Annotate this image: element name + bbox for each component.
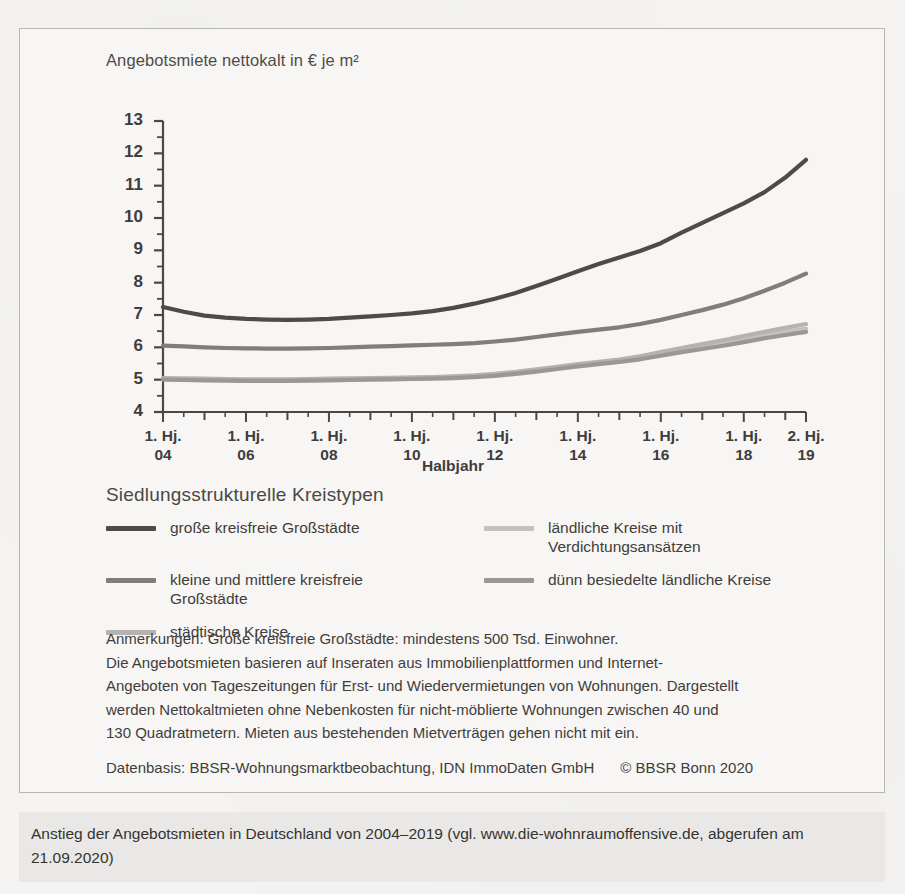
legend-color-swatch <box>484 526 534 531</box>
note-line: Die Angebotsmieten basieren auf Inserate… <box>106 651 836 675</box>
x-tick-period: 1. Hj. <box>559 427 596 444</box>
y-axis-tick-label: 8 <box>115 272 143 292</box>
x-tick-period: 1. Hj. <box>642 427 679 444</box>
legend-color-swatch <box>484 578 534 583</box>
data-basis-row: Datenbasis: BBSR-Wohnungsmarktbeobachtun… <box>106 759 836 776</box>
chart-legend: Siedlungsstrukturelle Kreistypen große k… <box>106 484 846 648</box>
x-tick-period: 1. Hj. <box>393 427 430 444</box>
x-axis-title: Halbjahr <box>20 457 886 475</box>
legend-item-label: dünn besiedelte ländliche Kreise <box>548 570 771 589</box>
legend-item-label: große kreisfreie Großstädte <box>170 518 360 537</box>
chart-notes: Anmerkungen: Große kreisfreie Großstädte… <box>106 627 836 745</box>
y-axis-tick-label: 13 <box>115 110 143 130</box>
x-tick-period: 1. Hj. <box>227 427 264 444</box>
y-axis-tick-label: 12 <box>115 142 143 162</box>
note-line: werden Nettokaltmieten ohne Nebenkosten … <box>106 698 836 722</box>
y-axis-tick-label: 4 <box>115 401 143 421</box>
x-tick-period: 1. Hj. <box>144 427 181 444</box>
x-tick-period: 1. Hj. <box>476 427 513 444</box>
legend-item-label: ländliche Kreise mit Verdichtungsansätze… <box>548 518 798 556</box>
series-line <box>163 160 806 320</box>
chart-area: Angebotsmiete nettokalt in € je m² 13121… <box>20 29 886 429</box>
line-chart-plot <box>20 29 886 429</box>
legend-color-swatch <box>106 578 156 583</box>
x-tick-period: 2. Hj. <box>787 427 824 444</box>
copyright-text: © BBSR Bonn 2020 <box>620 759 753 776</box>
figure-caption-band: Anstieg der Angebotsmieten in Deutschlan… <box>19 812 885 882</box>
legend-item-label: kleine und mittlere kreisfreie Großstädt… <box>170 570 420 608</box>
y-axis-tick-label: 10 <box>115 207 143 227</box>
data-basis-text: Datenbasis: BBSR-Wohnungsmarktbeobachtun… <box>106 759 594 776</box>
legend-item[interactable]: kleine und mittlere kreisfreie Großstädt… <box>106 570 420 608</box>
page-canvas: Angebotsmiete nettokalt in € je m² 13121… <box>0 0 905 894</box>
x-tick-period: 1. Hj. <box>725 427 762 444</box>
legend-title: Siedlungsstrukturelle Kreistypen <box>106 484 846 506</box>
legend-color-swatch <box>106 526 156 531</box>
y-axis-tick-label: 11 <box>115 175 143 195</box>
note-line: Anmerkungen: Große kreisfreie Großstädte… <box>106 627 836 651</box>
series-line <box>163 274 806 349</box>
legend-item[interactable]: dünn besiedelte ländliche Kreise <box>484 570 771 589</box>
y-axis-tick-label: 9 <box>115 239 143 259</box>
x-tick-period: 1. Hj. <box>310 427 347 444</box>
y-axis-tick-label: 7 <box>115 304 143 324</box>
figure-caption-text: Anstieg der Angebotsmieten in Deutschlan… <box>31 822 873 870</box>
legend-item[interactable]: ländliche Kreise mit Verdichtungsansätze… <box>484 518 798 556</box>
y-axis-tick-label: 5 <box>115 369 143 389</box>
figure-frame: Angebotsmiete nettokalt in € je m² 13121… <box>19 28 885 793</box>
note-line: 130 Quadratmetern. Mieten aus bestehende… <box>106 721 836 745</box>
series-line <box>163 324 806 379</box>
y-axis-tick-label: 6 <box>115 336 143 356</box>
note-line: Angeboten von Tageszeitungen für Erst- u… <box>106 674 836 698</box>
legend-item[interactable]: große kreisfreie Großstädte <box>106 518 360 537</box>
